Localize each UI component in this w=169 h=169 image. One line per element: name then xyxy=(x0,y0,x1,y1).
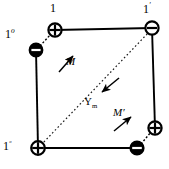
label-bottom-left-superscript: ᵒ xyxy=(9,138,11,147)
label-gamma-m: Υm xyxy=(84,96,97,110)
edge-left xyxy=(36,50,38,148)
label-bottom-left-1o: 1ᵒ xyxy=(3,139,11,152)
arrow-m-prime-shaft xyxy=(114,117,131,131)
edge-right xyxy=(152,28,155,128)
node-dipole-top-left-minus xyxy=(29,43,42,56)
label-top-right-superscript: ′ xyxy=(149,1,151,10)
label-top-left-1o: 1o xyxy=(5,27,15,40)
diagonal-dashed-line xyxy=(41,31,150,145)
node-corner-bottom-left-plus xyxy=(31,141,45,155)
label-moment-m: M xyxy=(66,56,75,67)
label-moment-m-prime: M′ xyxy=(113,107,125,118)
edge-top xyxy=(55,28,152,30)
label-gamma-subscript: m xyxy=(92,102,97,109)
label-top-right-1-prime: 1′ xyxy=(143,2,151,15)
arrow-gamma-m-shaft xyxy=(102,78,119,92)
node-corner-top-right-minus xyxy=(145,21,158,34)
dipole-link-bottom-right xyxy=(141,132,151,144)
label-top-1: 1 xyxy=(50,2,56,14)
node-corner-top-left-plus xyxy=(48,23,61,36)
node-dipole-bottom-right-minus xyxy=(130,141,144,155)
figure-canvas xyxy=(0,0,169,169)
label-top-left-superscript: o xyxy=(11,26,15,35)
dipole-lattice-figure: 1 1o 1′ 1ᵒ M M′ Υm xyxy=(0,0,169,169)
dipole-link-top-left xyxy=(40,34,51,46)
node-dipole-bottom-right-plus xyxy=(148,121,161,134)
